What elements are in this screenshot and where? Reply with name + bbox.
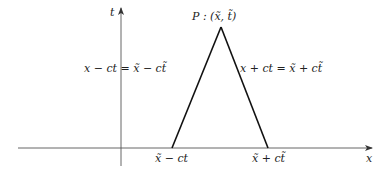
right-characteristic-label: x + ct = x̃ + ct̃ (240, 61, 323, 75)
left-characteristic-label: x − ct = x̃ − ct̃ (84, 61, 167, 75)
characteristics-diagram: t x P : (x̃, t̃) x − ct = x̃ − ct̃ x + c… (0, 0, 383, 174)
left-base-label: x̃ − ct (155, 152, 189, 165)
x-axis-label: x (366, 152, 373, 165)
apex-label: P : (x̃, t̃) (191, 9, 236, 23)
t-axis-label: t (110, 6, 115, 19)
left-characteristic-line (172, 27, 221, 148)
right-characteristic-line (221, 27, 268, 148)
right-base-label: x̃ + ct̃ (252, 151, 286, 165)
